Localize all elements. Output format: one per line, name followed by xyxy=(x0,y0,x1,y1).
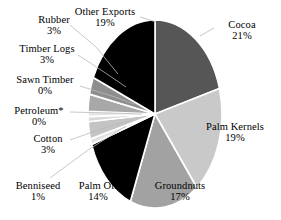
slice-label-pct: 0% xyxy=(4,116,74,127)
slice-label-sawn-timber: Sawn Timber 0% xyxy=(6,74,84,96)
slice-label-pct: 1% xyxy=(8,191,68,202)
slice-label-name: Palm Oil xyxy=(70,180,126,191)
slice-label-cotton: Cotton 3% xyxy=(22,133,74,155)
slice-label-name: Palm Kernels xyxy=(196,121,274,132)
slice-label-pct: 3% xyxy=(8,54,86,65)
pie-chart: Other Exports 19% Cocoa 21% Palm Kernels… xyxy=(0,0,281,220)
slice-label-rubber: Rubber 3% xyxy=(26,14,82,36)
leader-line-cocoa xyxy=(200,28,214,36)
slice-label-pct: 17% xyxy=(144,191,216,202)
slice-label-palm-kernels: Palm Kernels 19% xyxy=(196,121,274,143)
slice-label-pct: 3% xyxy=(26,25,82,36)
slice-label-petroleum: Petroleum* 0% xyxy=(4,105,74,127)
slice-label-pct: 21% xyxy=(216,30,268,41)
slice-label-benniseed: Benniseed 1% xyxy=(8,180,68,202)
slice-label-pct: 0% xyxy=(6,85,84,96)
slice-label-timber-logs: Timber Logs 3% xyxy=(8,43,86,65)
slice-label-palm-oil: Palm Oil 14% xyxy=(70,180,126,202)
slice-label-groundnuts: Groundnuts 17% xyxy=(144,180,216,202)
slice-label-name: Sawn Timber xyxy=(6,74,84,85)
slice-label-name: Petroleum* xyxy=(4,105,74,116)
slice-label-pct: 3% xyxy=(22,144,74,155)
slice-label-name: Cocoa xyxy=(216,19,268,30)
slice-label-cocoa: Cocoa 21% xyxy=(216,19,268,41)
slice-label-name: Rubber xyxy=(26,14,82,25)
slice-label-name: Groundnuts xyxy=(144,180,216,191)
slice-label-pct: 19% xyxy=(196,132,274,143)
slice-label-name: Benniseed xyxy=(8,180,68,191)
slice-label-name: Timber Logs xyxy=(8,43,86,54)
slice-label-pct: 14% xyxy=(70,191,126,202)
slice-label-name: Cotton xyxy=(22,133,74,144)
